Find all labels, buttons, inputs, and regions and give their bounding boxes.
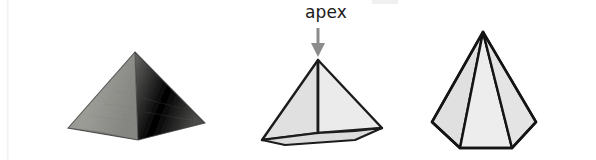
photo-pyramid-body bbox=[68, 52, 205, 140]
figure-page: apex bbox=[0, 0, 596, 160]
pyramid-photograph bbox=[30, 28, 230, 153]
photo-face-left bbox=[68, 52, 138, 140]
apex-arrow-icon bbox=[311, 28, 325, 57]
photo-face-right bbox=[135, 52, 205, 140]
square-pyramid-face-right bbox=[318, 60, 382, 133]
hexagonal-pyramid-diagram bbox=[415, 10, 565, 160]
square-pyramid-face-left bbox=[262, 60, 318, 140]
page-edge-artifact bbox=[6, 0, 9, 160]
square-pyramid-diagram bbox=[245, 0, 400, 160]
